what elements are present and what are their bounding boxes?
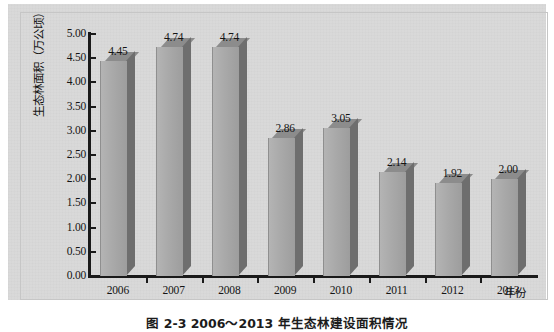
y-axis-tick [91, 251, 96, 253]
x-axis-tick-label-2008: 2008 [202, 284, 258, 296]
y-axis-tick-label: 0.00 [52, 270, 86, 281]
x-axis-tick [257, 278, 259, 283]
bar-side-face [517, 169, 526, 276]
bar-front-face [212, 47, 239, 276]
x-axis-tick-label-2013: 2013 [480, 284, 536, 296]
x-axis-tick [480, 278, 482, 283]
bar-side-face [349, 118, 358, 276]
y-axis-tick [91, 81, 96, 83]
x-axis-tick-label-2010: 2010 [313, 284, 369, 296]
bar-value-label: 4.45 [90, 45, 146, 57]
x-axis-tick [425, 278, 427, 283]
x-axis-tick-label-2007: 2007 [146, 284, 202, 296]
y-axis-tick-label: 4.00 [52, 76, 86, 87]
y-axis-tick-label: 1.50 [52, 197, 86, 208]
bar-value-label: 1.92 [425, 167, 481, 179]
bar-value-label: 2.14 [369, 156, 425, 168]
y-axis-tick [91, 106, 96, 108]
plot-area [90, 34, 536, 276]
y-axis-tick-label: 3.50 [52, 101, 86, 112]
bar-front-face [491, 179, 518, 276]
y-axis-tick [91, 227, 96, 229]
y-axis-tick [91, 57, 96, 59]
y-axis-tick-label: 3.00 [52, 125, 86, 136]
bar-front-face [435, 183, 462, 276]
y-axis-tick [91, 154, 96, 156]
bar-2009 [268, 138, 294, 276]
bar-front-face [268, 138, 295, 276]
bar-2010 [323, 128, 349, 276]
y-axis-tick-label: 1.00 [52, 222, 86, 233]
bar-side-face [182, 37, 191, 276]
x-axis-tick [146, 278, 148, 283]
bar-side-face [461, 173, 470, 276]
bar-side-face [238, 37, 247, 276]
y-axis-title: 生态林面积（万公顷） [30, 0, 46, 137]
figure-block: 生态林面积（万公顷） 5.004.504.003.503.002.502.001… [8, 4, 546, 300]
x-axis-tick-label-2011: 2011 [369, 284, 425, 296]
x-axis-tick-label-2006: 2006 [90, 284, 146, 296]
x-axis-tick [202, 278, 204, 283]
y-axis-tick-labels: 5.004.504.003.503.002.502.001.501.000.50… [48, 4, 86, 332]
bar-front-face [156, 47, 183, 276]
bar-2008 [212, 47, 238, 276]
x-axis-tick-label-2012: 2012 [425, 284, 481, 296]
bar-value-label: 4.74 [146, 31, 202, 43]
y-axis-tick [91, 33, 96, 35]
y-axis-tick-label: 2.00 [52, 173, 86, 184]
bar-front-face [379, 172, 406, 276]
bar-value-label: 2.86 [257, 122, 313, 134]
x-axis-tick [313, 278, 315, 283]
bar-front-face [100, 61, 127, 276]
bar-value-label: 4.74 [202, 31, 258, 43]
figure-caption: 图 2-3 2006～2013 年生态林建设面积情况 [0, 313, 554, 332]
bar-2011 [379, 172, 405, 276]
x-axis-tick-label-2009: 2009 [257, 284, 313, 296]
bar-side-face [126, 51, 135, 276]
y-axis-tick [91, 202, 96, 204]
y-axis-tick-label: 5.00 [52, 28, 86, 39]
bar-2006 [100, 61, 126, 276]
bar-side-face [405, 162, 414, 276]
bar-2007 [156, 47, 182, 276]
y-axis-tick [91, 178, 96, 180]
y-axis-tick-label: 2.50 [52, 149, 86, 160]
y-axis-tick-label: 4.50 [52, 52, 86, 63]
y-axis-tick-label: 0.50 [52, 246, 86, 257]
bar-front-face [323, 128, 350, 276]
y-axis-tick [91, 130, 96, 132]
bar-side-face [294, 128, 303, 276]
bar-2012 [435, 183, 461, 276]
y-axis-tick [91, 275, 96, 277]
x-axis-tick [369, 278, 371, 283]
bar-2013 [491, 179, 517, 276]
bar-value-label: 3.05 [313, 112, 369, 124]
bar-value-label: 2.00 [480, 163, 536, 175]
